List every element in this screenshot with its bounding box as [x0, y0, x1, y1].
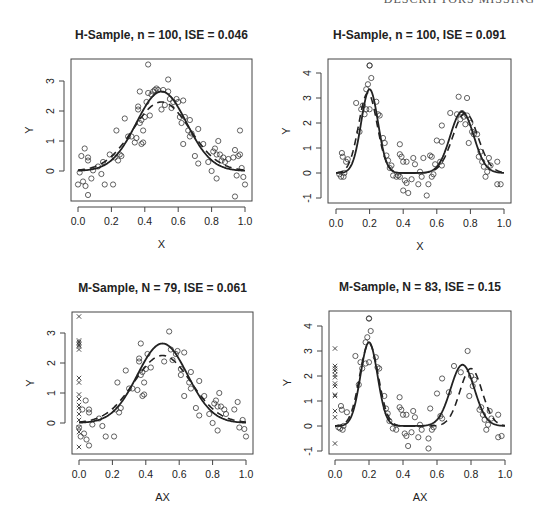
- data-point-x-marker: [77, 397, 81, 401]
- chart-title: M-Sample, N = 83, ISE = 0.15: [339, 280, 501, 294]
- data-point-circle: [367, 107, 372, 112]
- data-point-circle: [123, 368, 128, 373]
- data-point-circle: [214, 176, 219, 181]
- estimate-curve-dashed: [79, 356, 246, 423]
- x-axis: 0.00.20.40.60.81.0: [329, 209, 512, 229]
- data-point-circle: [193, 405, 198, 410]
- data-point-circle: [485, 422, 490, 427]
- data-point-circle: [207, 411, 212, 416]
- data-point-circle: [84, 437, 89, 442]
- data-point-circle: [439, 123, 444, 128]
- data-point-circle: [217, 390, 222, 395]
- true-curve-solid: [335, 342, 505, 426]
- y-tick-label: -1: [301, 193, 313, 202]
- data-point-circle: [122, 116, 127, 121]
- data-point-circle: [426, 436, 431, 441]
- y-axis-label: Y: [24, 379, 36, 387]
- data-point-circle: [90, 422, 95, 427]
- y-tick-label: 2: [301, 120, 313, 126]
- data-point-circle: [365, 335, 370, 340]
- x-axis: 0.00.20.40.60.81.0: [72, 460, 254, 480]
- x-tick-label: 0.2: [105, 468, 120, 480]
- data-point-circle: [424, 193, 429, 198]
- data-point-circle: [79, 153, 84, 158]
- data-point-circle: [344, 410, 349, 415]
- x-axis-label: AX: [413, 491, 428, 503]
- x-tick-label: 0.2: [362, 468, 377, 480]
- x-tick-label: 0.6: [171, 215, 186, 227]
- x-tick-label: 0.6: [172, 468, 187, 480]
- data-point-circle: [86, 443, 91, 448]
- data-point-x-marker: [333, 415, 337, 419]
- data-point-circle: [197, 413, 202, 418]
- data-point-circle: [465, 348, 470, 353]
- data-point-circle: [394, 427, 399, 432]
- data-point-circle: [464, 95, 469, 100]
- x-tick-label: 0.0: [71, 215, 86, 227]
- data-point-circle: [456, 94, 461, 99]
- x-tick-label: 0.8: [205, 468, 220, 480]
- data-point-circle: [187, 117, 192, 122]
- data-point-circle: [353, 353, 358, 358]
- data-point-circle: [110, 182, 115, 187]
- data-point-circle: [212, 146, 217, 151]
- y-tick-label: 4: [301, 70, 313, 76]
- data-point-circle: [103, 434, 108, 439]
- data-point-circle: [210, 420, 215, 425]
- x-tick-label: 0.6: [429, 217, 444, 229]
- data-point-circle: [217, 152, 222, 157]
- data-point-circle: [83, 398, 88, 403]
- data-point-circle: [397, 395, 402, 400]
- plot-frame: [71, 59, 252, 201]
- data-point-circle: [182, 350, 187, 355]
- y-axis: 0123: [45, 330, 65, 426]
- data-point-circle: [338, 403, 343, 408]
- data-point-circle: [466, 140, 471, 145]
- data-point-circle: [366, 316, 371, 321]
- data-point-circle: [85, 158, 90, 163]
- data-point-circle: [181, 141, 186, 146]
- data-point-circle: [81, 431, 86, 436]
- plot-frame: [328, 59, 511, 203]
- data-point-circle: [135, 387, 140, 392]
- data-point-circle: [242, 426, 247, 431]
- data-point-circle: [222, 159, 227, 164]
- x-tick-label: 0.8: [204, 215, 219, 227]
- data-point-circle: [162, 102, 167, 107]
- data-point-circle: [439, 139, 444, 144]
- data-point-circle: [404, 412, 409, 417]
- data-point-circle: [397, 174, 402, 179]
- data-point-circle: [463, 122, 468, 127]
- data-point-circle: [136, 104, 141, 109]
- true-curve-solid: [336, 89, 504, 173]
- plot-area: [75, 62, 247, 199]
- data-point-circle: [215, 428, 220, 433]
- x-tick-label: 1.0: [238, 215, 253, 227]
- data-point-x-marker: [77, 412, 81, 416]
- plot-area: [336, 63, 504, 198]
- estimate-curve-dashed: [335, 344, 505, 427]
- data-point-circle: [243, 434, 248, 439]
- data-point-circle: [419, 427, 424, 432]
- data-point-x-marker: [333, 369, 337, 373]
- panel-top-right: H-Sample, n = 100, ISE = 0.0910.00.20.40…: [280, 28, 511, 252]
- data-point-circle: [187, 134, 192, 139]
- panel-bottom-left: M-Sample, N = 79, ISE = 0.0610.00.20.40.…: [24, 281, 253, 503]
- y-axis-label: Y: [281, 378, 293, 386]
- data-point-circle: [223, 411, 228, 416]
- data-point-circle: [85, 192, 90, 197]
- data-point-circle: [429, 154, 434, 159]
- data-point-circle: [218, 404, 223, 409]
- x-tick-label: 0.8: [464, 468, 479, 480]
- data-point-circle: [448, 110, 453, 115]
- data-point-circle: [242, 182, 247, 187]
- data-point-circle: [496, 412, 501, 417]
- data-point-circle: [237, 425, 242, 430]
- data-point-circle: [182, 393, 187, 398]
- y-tick-label: 1: [302, 398, 314, 404]
- data-point-circle: [196, 126, 201, 131]
- data-point-circle: [369, 75, 374, 80]
- y-tick-label: 2: [45, 360, 57, 366]
- data-point-circle: [166, 77, 171, 82]
- chart-title: H-Sample, n = 100, ISE = 0.091: [333, 28, 506, 42]
